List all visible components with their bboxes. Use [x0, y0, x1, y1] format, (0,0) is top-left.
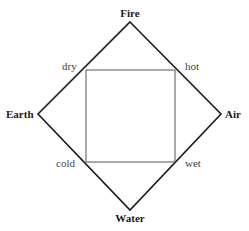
label-earth: Earth — [6, 108, 34, 120]
label-hot: hot — [185, 60, 199, 72]
label-air: Air — [225, 108, 241, 120]
label-cold: cold — [56, 157, 75, 169]
outer-diamond — [38, 22, 221, 210]
inner-square — [86, 70, 175, 162]
label-water: Water — [115, 212, 144, 224]
label-dry: dry — [62, 60, 77, 72]
label-wet: wet — [185, 157, 201, 169]
elements-diagram: Fire Earth Air Water dry hot cold wet — [0, 0, 249, 231]
label-fire: Fire — [120, 7, 139, 19]
